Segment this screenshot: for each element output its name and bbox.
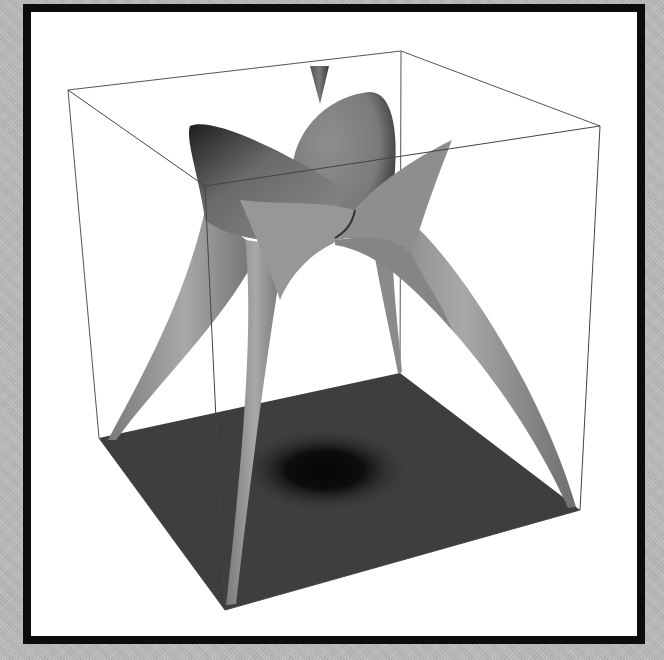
surface-plot (0, 0, 664, 660)
surface-cone (310, 66, 329, 104)
floor-plane (99, 373, 580, 610)
floor-shadow (240, 428, 410, 512)
